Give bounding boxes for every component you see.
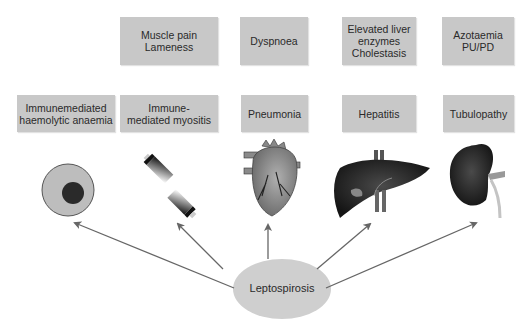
red-blood-cell-icon (42, 164, 94, 216)
arrow-to-liver (317, 224, 370, 269)
heart-icon (244, 139, 300, 216)
leptospirosis-label: Leptospirosis (230, 282, 334, 294)
arrow-to-muscle (178, 224, 223, 269)
muscle-fiber-icon (142, 152, 199, 221)
kidney-icon (450, 144, 505, 218)
liver-icon (334, 150, 430, 218)
arrow-to-kidney (326, 223, 476, 288)
